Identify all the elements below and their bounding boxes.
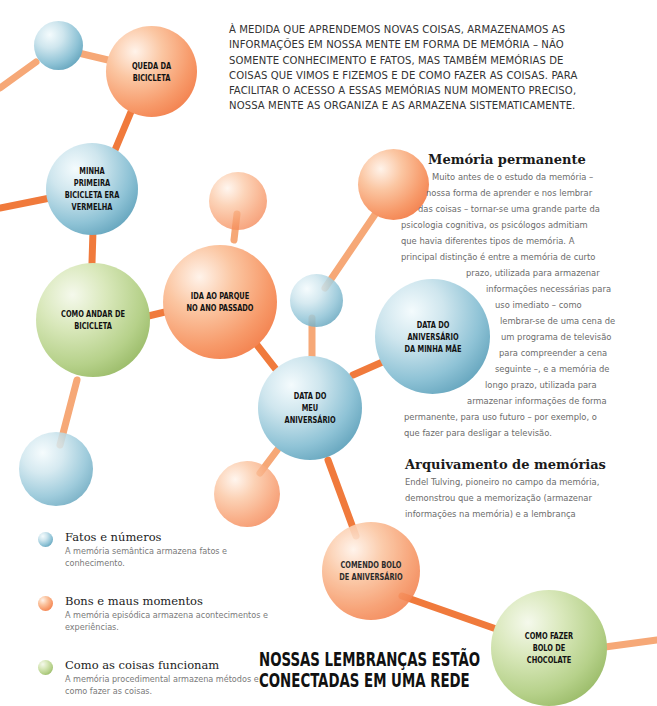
sphere-label: COMO FAZER BOLO DE CHOCOLATE (519, 630, 578, 666)
legend-title: Fatos e números (65, 530, 161, 544)
intro-line: À MEDIDA QUE APRENDEMOS NOVAS COISAS, AR… (229, 22, 654, 37)
network-title-line: CONECTADAS EM UMA REDE (259, 670, 480, 691)
orange-sphere-icon (38, 596, 53, 611)
body-line: Muito antes de o estudo da memória – (432, 169, 593, 186)
legend-description: A memória semântica armazena fatos e con… (65, 546, 275, 569)
blue-sphere-icon (38, 532, 53, 547)
sphere-small-center (290, 274, 343, 327)
intro-line: NOSSA MENTE AS ORGANIZA E AS ARMAZENA SI… (229, 98, 654, 113)
sphere-label: QUEDA DA BICICLETA (129, 60, 174, 84)
network-title: NOSSAS LEMBRANÇAS ESTÃO CONECTADAS EM UM… (259, 649, 480, 691)
sphere-label: IDA AO PARQUE NO ANO PASSADO (186, 290, 255, 314)
sphere-label: DATA DO MEU ANIVERSÁRIO (285, 390, 336, 426)
legend-title: Bons e maus momentos (65, 594, 203, 608)
sphere-data-meu-aniversario: DATA DO MEU ANIVERSÁRIO (258, 356, 362, 460)
green-sphere-icon (38, 660, 53, 675)
sphere-data-aniversario-mae: DATA DO ANIVERSÁRIO DA MINHA MÃE (375, 279, 490, 394)
sphere-queda-da-bicicleta: QUEDA DA BICICLETA (106, 26, 197, 117)
body-line: psicologia cognitiva, os psicólogos admi… (401, 217, 588, 234)
body-line: principal distinção é entre a memória de… (401, 249, 595, 266)
sphere-comendo-bolo: COMENDO BOLO DE ANIVERSÁRIO (322, 522, 420, 620)
sphere-small-bottom-left (19, 432, 93, 506)
intro-line: SOMENTE CONHECIMENTO E FATOS, MAS TAMBÉM… (229, 53, 654, 68)
body-line: Endel Tulving, pioneiro no campo da memó… (405, 474, 599, 491)
sphere-ida-ao-parque: IDA AO PARQUE NO ANO PASSADO (163, 245, 277, 359)
body-line: prazo, utilizada para armazenar (466, 265, 600, 282)
body-line: nossa forma de aprender e nos lembrar (426, 185, 592, 202)
body-line: um programa de televisão (501, 329, 611, 346)
body-line: permanente, para uso futuro – por exempl… (404, 409, 597, 426)
body-line: que fazer para desligar a televisão. (404, 425, 552, 442)
legend-description: A memória procedimental armazena métodos… (65, 674, 275, 697)
sphere-small-peach-bottom (214, 461, 280, 527)
sphere-label: DATA DO ANIVERSÁRIO DA MINHA MÃE (404, 319, 461, 355)
body-line: informações necessárias para (486, 281, 611, 298)
intro-paragraph: À MEDIDA QUE APRENDEMOS NOVAS COISAS, AR… (229, 22, 654, 114)
section-title-memoria-permanente: Memória permanente (428, 152, 586, 167)
sphere-como-fazer-bolo: COMO FAZER BOLO DE CHOCOLATE (491, 590, 607, 706)
legend-description: A memória episódica armazena acontecimen… (65, 610, 305, 633)
body-line: informações na memória) e a lembrança (405, 506, 576, 523)
body-line: longo prazo, utilizada para (485, 377, 597, 394)
section-title-arquivamento: Arquivamento de memórias (405, 457, 606, 472)
body-line: lembrar-se de uma cena de (500, 313, 615, 330)
intro-line: COISAS QUE VIMOS E FIZEMOS E DE COMO FAZ… (229, 68, 654, 83)
sphere-label: COMO ANDAR DE BICICLETA (61, 308, 125, 332)
intro-line: FACILITAR O ACESSO A ESSAS MEMÓRIAS NUM … (229, 83, 654, 98)
sphere-minha-primeira-bicicleta: MINHA PRIMEIRA BICICLETA ERA VERMELHA (46, 143, 138, 235)
sphere-como-andar-de-bicicleta: COMO ANDAR DE BICICLETA (36, 263, 150, 377)
body-line: armazenar informações de forma (467, 393, 607, 410)
body-line: das coisas – tornar-se uma grande parte … (418, 201, 600, 218)
sphere-small-peach-top (209, 172, 267, 230)
legend-title: Como as coisas funcionam (65, 658, 219, 672)
body-line: para compreender a cena (499, 345, 607, 362)
body-line: seguinte –, e a memória de (495, 361, 609, 378)
body-line: que havia diferentes tipos de memória. A (401, 233, 574, 250)
body-line: uso imediato – como (495, 297, 582, 314)
sphere-label: MINHA PRIMEIRA BICICLETA ERA VERMELHA (62, 165, 121, 213)
network-title-line: NOSSAS LEMBRANÇAS ESTÃO (259, 649, 480, 670)
sphere-small-top-left (34, 21, 83, 70)
sphere-label: COMENDO BOLO DE ANIVERSÁRIO (339, 559, 403, 583)
intro-line: INFORMAÇÕES EM NOSSA MENTE EM FORMA DE M… (229, 37, 654, 52)
body-line: demonstrou que a memorização (armazenar (405, 490, 592, 507)
